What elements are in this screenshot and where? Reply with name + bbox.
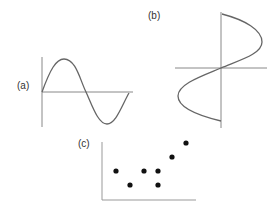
panel-a-label: (a) — [17, 80, 29, 91]
panel-c-label: (c) — [78, 138, 90, 149]
scatter-point — [169, 154, 174, 159]
scatter-point — [183, 140, 188, 145]
figure-canvas — [0, 0, 278, 212]
scatter-point — [141, 168, 146, 173]
scatter-point — [127, 182, 132, 187]
panel-c-points — [113, 140, 188, 187]
panel-b-plot — [175, 12, 267, 128]
panel-a-plot — [42, 57, 133, 127]
scatter-point — [155, 168, 160, 173]
panel-b-label: (b) — [148, 10, 160, 21]
scatter-point — [113, 168, 118, 173]
scatter-point — [155, 182, 160, 187]
panel-c-plot — [102, 140, 196, 200]
